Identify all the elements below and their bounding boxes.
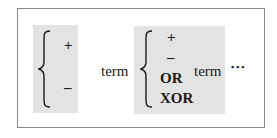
term-label: term (101, 64, 129, 79)
minus-operator: – (167, 50, 175, 65)
minus-operator: – (64, 80, 72, 95)
or-operator: OR (160, 71, 183, 86)
plus-operator: + (64, 38, 73, 53)
term-label: term (194, 64, 222, 79)
xor-operator: XOR (160, 91, 193, 106)
left-brace-icon (140, 30, 154, 108)
plus-operator: + (167, 30, 176, 45)
left-brace-icon (38, 30, 52, 108)
ellipsis-continuation: ••• (231, 63, 246, 72)
